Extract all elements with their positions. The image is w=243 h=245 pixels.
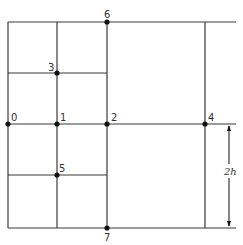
node-4	[202, 121, 207, 126]
node-label-1: 1	[60, 112, 66, 123]
dimension-label: 2h	[223, 166, 237, 177]
node-6	[104, 19, 109, 24]
node-label-3: 3	[48, 62, 54, 73]
node-label-0: 0	[11, 112, 17, 123]
arrow-down-icon	[227, 221, 231, 227]
node-0	[5, 121, 10, 126]
node-2	[104, 121, 109, 126]
node-label-7: 7	[104, 232, 110, 243]
node-label-6: 6	[104, 9, 110, 20]
node-3	[54, 70, 59, 75]
node-label-5: 5	[59, 163, 65, 174]
node-label-4: 4	[208, 112, 214, 123]
node-1	[54, 121, 59, 126]
grid-diagram: 2h 0 1 2 3 4 5 6 7	[0, 0, 243, 245]
node-label-2: 2	[111, 112, 117, 123]
arrow-up-icon	[227, 125, 231, 131]
node-7	[104, 225, 109, 230]
